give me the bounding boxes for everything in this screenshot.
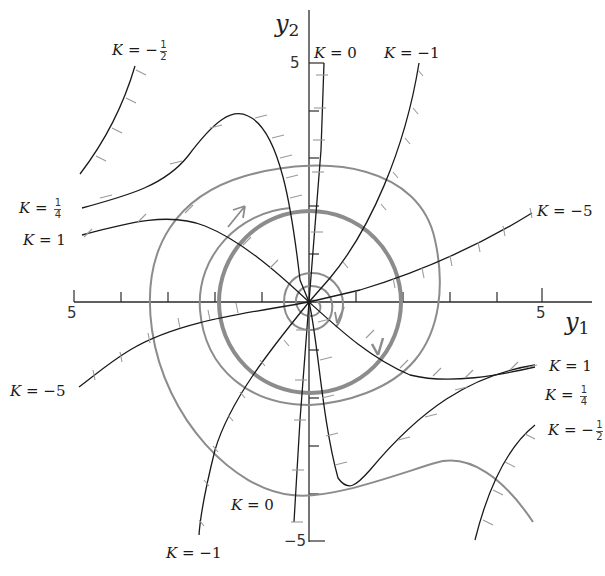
direction-field-marks — [84, 70, 537, 526]
y2-tick-label-bottom: −5 — [284, 534, 306, 549]
isocline-label-k-neg-half-upper: K = −12 — [112, 40, 167, 62]
isocline-label-k-neg-five-left: K = −5 — [10, 384, 65, 399]
isocline-k-neg-half-upper — [80, 66, 135, 174]
y1-tick-label-left: 5 — [67, 306, 77, 321]
isocline-label-k-neg-half-lower: K = −12 — [548, 420, 603, 442]
cycle-arrow-icon — [372, 338, 383, 355]
y2-tick-label-top: 5 — [290, 56, 300, 71]
isocline-label-k-one-right: K = 1 — [549, 359, 592, 374]
y1-axis-label: y1 — [565, 310, 589, 337]
isocline-label-k-quarter-left: K = 14 — [19, 198, 61, 220]
isocline-label-k-quarter-right: K = 14 — [545, 385, 587, 407]
isocline-label-k-zero-top: K = 0 — [314, 46, 357, 61]
isocline-label-k-neg-one-bottom: K = −1 — [166, 546, 221, 561]
outer-trajectory — [150, 166, 533, 522]
y1-tick-label-right: 5 — [536, 306, 546, 321]
trajectories — [150, 166, 533, 522]
isocline-k-neg-five — [79, 213, 532, 387]
isocline-label-k-zero-bottom: K = 0 — [231, 498, 274, 513]
isocline-k-neg-half-lower — [475, 425, 535, 540]
phase-plane-diagram — [0, 0, 605, 576]
y2-axis-label: y2 — [275, 12, 299, 39]
isocline-label-k-neg-one-top: K = −1 — [384, 46, 439, 61]
isocline-label-k-one-left: K = 1 — [23, 233, 66, 248]
isocline-label-k-neg-five-right: K = −5 — [537, 204, 592, 219]
